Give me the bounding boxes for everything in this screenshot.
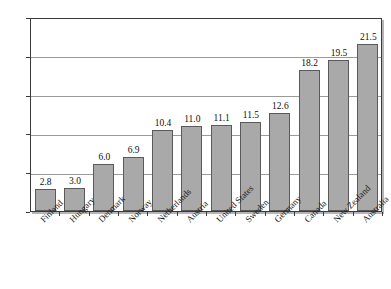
x-axis-tick-mark [382,212,383,216]
bar[interactable] [299,70,320,211]
y-axis-tick-mark [26,96,30,97]
x-axis-tick-mark [177,212,178,216]
x-axis-tick-mark [235,212,236,216]
bar-value-label: 11.0 [178,114,207,124]
bar[interactable] [328,60,349,211]
bar-slot: 12.6 [266,19,295,211]
bar-slot: 6.9 [119,19,148,211]
bar-slot: 19.5 [324,19,353,211]
x-axis-tick-mark [353,212,354,216]
y-axis-tick-mark [26,212,30,213]
x-axis-tick-mark [147,212,148,216]
y-axis-tick-mark [26,57,30,58]
bar-slot: 11.0 [178,19,207,211]
bar-slot: 6.0 [90,19,119,211]
x-axis-tick-mark [206,212,207,216]
bar[interactable] [269,113,290,211]
bar-value-label: 11.5 [236,110,265,120]
figure-caption [4,277,204,287]
bar-slot: 21.5 [354,19,383,211]
chart-plot-frame: 2.83.06.06.910.411.011.111.512.618.219.5… [30,18,382,212]
bar-slot: 10.4 [148,19,177,211]
bar-value-label: 6.9 [119,145,148,155]
x-axis-tick-mark [265,212,266,216]
bar-value-label: 11.1 [207,113,236,123]
bar-value-label: 3.0 [60,176,89,186]
bar[interactable] [152,130,173,211]
bar-slot: 11.5 [236,19,265,211]
x-axis-tick-mark [59,212,60,216]
bar-value-label: 21.5 [354,32,383,42]
x-axis-tick-mark [118,212,119,216]
bar-value-label: 12.6 [266,101,295,111]
bar-slot: 11.1 [207,19,236,211]
bar[interactable] [211,125,232,211]
bar-value-label: 19.5 [324,48,353,58]
bar-value-label: 2.8 [31,177,60,187]
bar-slot: 2.8 [31,19,60,211]
bar-slot: 3.0 [60,19,89,211]
y-axis-tick-mark [26,173,30,174]
bar-value-label: 10.4 [148,118,177,128]
bar-slot: 18.2 [295,19,324,211]
y-axis-tick-mark [26,18,30,19]
y-axis-tick-mark [26,134,30,135]
x-axis-tick-mark [294,212,295,216]
bar-value-label: 6.0 [90,152,119,162]
x-axis-tick-mark [323,212,324,216]
bar-value-label: 18.2 [295,58,324,68]
bars-group: 2.83.06.06.910.411.011.111.512.618.219.5… [31,19,381,211]
chart-plot-area: 2.83.06.06.910.411.011.111.512.618.219.5… [31,19,381,211]
x-axis-tick-mark [89,212,90,216]
